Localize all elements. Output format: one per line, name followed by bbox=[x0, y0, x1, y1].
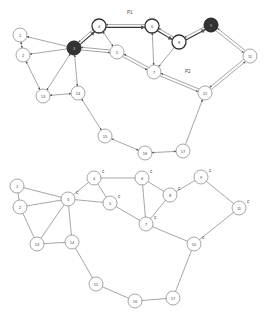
top-node-15: 15 bbox=[98, 129, 112, 143]
top-edge-9-11 bbox=[216, 28, 246, 52]
top-node-5: 5 bbox=[110, 45, 124, 59]
bottom-node-1: 1 bbox=[10, 179, 24, 193]
top-edge-8-9 bbox=[185, 27, 206, 40]
bottom-edge-11-10 bbox=[194, 208, 239, 244]
top-edge-3-1 bbox=[27, 37, 67, 47]
node-annotation: c bbox=[209, 168, 212, 173]
bottom-node-4: 4c bbox=[87, 169, 105, 185]
node-annotation: c bbox=[154, 215, 157, 220]
top-edge-8-7 bbox=[158, 47, 174, 66]
path-label-p2: P2 bbox=[185, 69, 191, 74]
bottom-node-3: 3c bbox=[61, 190, 79, 206]
top-graph-edges bbox=[21, 25, 245, 153]
node-annotation: c bbox=[247, 199, 250, 204]
bottom-edge-9-11 bbox=[201, 177, 239, 208]
bottom-node-2: 2 bbox=[13, 200, 27, 214]
node-label: 17 bbox=[171, 296, 176, 301]
top-edge-17-12 bbox=[185, 100, 202, 145]
graph-svg: 12345678911121314151617 P1P2 123c4c5c6c8… bbox=[0, 0, 269, 315]
top-node-8: 8 bbox=[172, 35, 186, 49]
node-label: 15 bbox=[103, 134, 108, 139]
bottom-edge-17-10 bbox=[173, 244, 194, 298]
bottom-node-9: 9c bbox=[194, 168, 212, 184]
top-edge-1-2 bbox=[21, 42, 22, 48]
top-edge-3-4 bbox=[78, 30, 94, 45]
top-node-11: 11 bbox=[243, 49, 257, 63]
bottom-graph-nodes: 123c4c5c6c8c9c7c11c10c1314151617 bbox=[10, 168, 250, 308]
diagram-canvas: 12345678911121314151617 P1P2 123c4c5c6c8… bbox=[0, 0, 269, 315]
top-edge-13-14 bbox=[50, 94, 71, 96]
top-edge-15-16 bbox=[111, 139, 138, 151]
top-node-17: 17 bbox=[176, 144, 190, 158]
top-edge-6-8 bbox=[157, 28, 173, 39]
node-label: 15 bbox=[94, 282, 99, 287]
top-node-2: 2 bbox=[16, 48, 30, 62]
bottom-node-14: 14 bbox=[65, 235, 79, 249]
node-label: 13 bbox=[41, 94, 46, 99]
top-node-13: 13 bbox=[36, 89, 50, 103]
top-edge-2-13 bbox=[26, 61, 40, 89]
top-node-14: 14 bbox=[71, 86, 85, 100]
top-graph-nodes: 12345678911121314151617 bbox=[13, 18, 257, 160]
top-node-6: 6 bbox=[145, 19, 159, 33]
bottom-node-13: 13 bbox=[30, 237, 44, 251]
node-label: 16 bbox=[143, 151, 148, 156]
path-label-p1: P1 bbox=[127, 10, 133, 15]
top-edge-4-6 bbox=[106, 25, 145, 28]
node-annotation: c bbox=[118, 194, 121, 199]
node-label: 10 bbox=[192, 242, 197, 247]
node-label: 14 bbox=[70, 240, 75, 245]
top-node-16: 16 bbox=[138, 146, 152, 160]
top-edge-7-12 bbox=[160, 73, 199, 91]
node-label: 13 bbox=[35, 242, 40, 247]
node-label: 17 bbox=[181, 149, 186, 154]
top-edge-4-5 bbox=[103, 32, 113, 46]
bottom-node-11: 11c bbox=[232, 199, 250, 215]
top-node-12: 12 bbox=[198, 86, 212, 100]
bottom-node-15: 15 bbox=[89, 277, 103, 291]
node-annotation: c bbox=[102, 169, 105, 174]
bottom-node-7: 7c bbox=[139, 215, 157, 231]
top-edge-5-7 bbox=[122, 54, 148, 70]
bottom-node-17: 17 bbox=[166, 291, 180, 305]
node-annotation: c bbox=[178, 186, 181, 191]
top-node-4: 4 bbox=[92, 19, 106, 33]
top-edge-3-2 bbox=[30, 49, 67, 54]
top-node-3: 3 bbox=[67, 41, 81, 55]
top-edge-3-5 bbox=[81, 47, 110, 52]
bottom-node-8: 8c bbox=[163, 186, 181, 202]
node-annotation: c bbox=[150, 169, 153, 174]
node-label: 14 bbox=[76, 91, 81, 96]
top-node-7: 7 bbox=[147, 65, 161, 79]
bottom-edge-1-3 bbox=[17, 186, 68, 199]
bottom-edge-7-10 bbox=[146, 224, 194, 244]
top-edge-3-14 bbox=[75, 55, 78, 86]
top-edge-3-13 bbox=[47, 54, 70, 90]
node-label: 12 bbox=[203, 91, 208, 96]
bottom-node-16: 16 bbox=[128, 294, 142, 308]
bottom-edge-3-13 bbox=[37, 199, 68, 244]
top-edge-14-15 bbox=[82, 99, 102, 130]
top-edge-16-17 bbox=[152, 151, 176, 152]
bottom-node-10: 10c bbox=[187, 235, 205, 251]
node-label: 16 bbox=[133, 299, 138, 304]
top-node-9: 9 bbox=[204, 18, 218, 32]
top-edge-6-7 bbox=[152, 33, 153, 65]
top-node-1: 1 bbox=[13, 28, 27, 42]
bottom-node-6: 6c bbox=[135, 169, 153, 185]
bottom-graph-edges bbox=[17, 177, 239, 301]
top-edge-12-11 bbox=[210, 59, 246, 89]
